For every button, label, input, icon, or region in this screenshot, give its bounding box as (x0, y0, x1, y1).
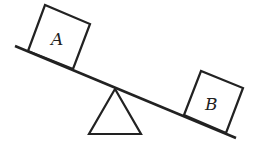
box-b-label: B (204, 94, 218, 114)
box-a-label: A (49, 29, 63, 49)
seesaw-diagram: A B (0, 0, 255, 151)
